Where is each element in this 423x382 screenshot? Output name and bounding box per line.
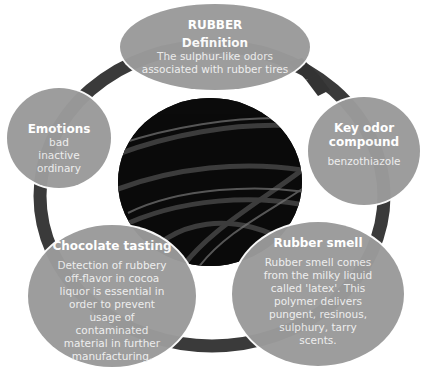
key-odor-bubble: Key odor compound benzothiazole xyxy=(308,97,420,205)
key-odor-title: Key odor compound xyxy=(324,121,404,149)
definition-text: The sulphur-like odors associated with r… xyxy=(140,50,290,76)
emotion-item: ordinary xyxy=(37,162,81,175)
emotions-bubble: Emotions bad inactive ordinary xyxy=(7,88,111,188)
emotion-item: bad xyxy=(49,136,69,149)
rubber-smell-title: Rubber smell xyxy=(273,236,362,250)
key-odor-text: benzothiazole xyxy=(327,155,400,168)
diagram-title: RUBBER xyxy=(188,18,243,32)
emotions-title: Emotions xyxy=(28,122,91,136)
rubber-smell-bubble: Rubber smell Rubber smell comes from the… xyxy=(232,222,404,366)
rubber-smell-text: Rubber smell comes from the milky liquid… xyxy=(263,256,373,347)
chocolate-tasting-title: Chocolate tasting xyxy=(52,239,171,253)
rubber-cycle-diagram: RUBBER Definition The sulphur-like odors… xyxy=(0,0,423,382)
chocolate-tasting-bubble: Chocolate tasting Detection of rubbery o… xyxy=(28,225,196,367)
definition-bubble: RUBBER Definition The sulphur-like odors… xyxy=(120,4,310,90)
emotion-item: inactive xyxy=(38,149,80,162)
chocolate-tasting-text: Detection of rubbery off-flavor in cocoa… xyxy=(52,259,172,363)
definition-title: Definition xyxy=(182,36,248,50)
